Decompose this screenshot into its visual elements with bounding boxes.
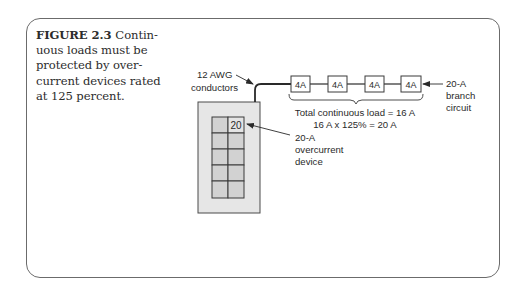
load-label: 4A <box>369 80 380 90</box>
load-brace <box>289 94 423 104</box>
conductor-arrow <box>236 75 253 84</box>
breaker <box>212 165 228 181</box>
load-1: 4A <box>291 76 310 92</box>
calc-label: 16 A x 125% = 20 A <box>313 119 397 130</box>
total-load-label: Total continuous load = 16 A <box>295 107 416 118</box>
load-2: 4A <box>328 76 347 92</box>
breaker <box>228 133 244 149</box>
breaker-value: 20 <box>230 120 242 131</box>
load-label: 4A <box>332 80 343 90</box>
load-3: 4A <box>365 76 384 92</box>
device-label: 20-A overcurrent device <box>295 132 346 167</box>
breaker <box>212 181 228 198</box>
circuit-diagram: 20 4A 4A 4A 4A Total continuous load = 1… <box>0 0 526 293</box>
breaker <box>212 133 228 149</box>
breaker <box>212 149 228 165</box>
breaker <box>212 117 228 133</box>
conductor-wire <box>255 84 291 102</box>
breaker <box>228 149 244 165</box>
load-4: 4A <box>401 76 421 92</box>
load-label: 4A <box>405 80 416 90</box>
breaker <box>228 165 244 181</box>
load-label: 4A <box>295 80 306 90</box>
conductor-label: 12 AWG conductors <box>191 69 238 93</box>
branch-label: 20-A branch circuit <box>446 78 478 113</box>
breaker <box>228 181 244 198</box>
